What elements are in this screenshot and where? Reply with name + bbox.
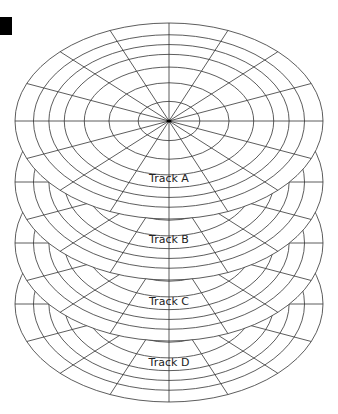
track-b-label: Track B: [149, 233, 189, 246]
disk-platter-diagram: [0, 0, 338, 414]
platter-top: [15, 23, 323, 219]
track-c-label: Track C: [149, 295, 189, 308]
track-a-label: Track A: [149, 172, 189, 185]
track-d-label: Track D: [149, 356, 190, 369]
